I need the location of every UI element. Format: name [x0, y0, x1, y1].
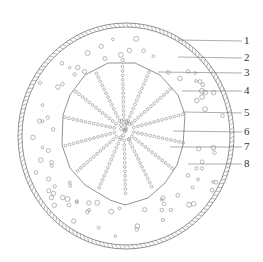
label-8: 8: [244, 158, 250, 169]
label-5: 5: [244, 107, 250, 118]
label-1: 1: [244, 35, 250, 46]
label-4: 4: [244, 85, 250, 96]
cell-circles: [31, 36, 225, 237]
cross-section-diagram: [0, 0, 263, 262]
label-7: 7: [244, 141, 250, 152]
epidermis-ring: [18, 23, 234, 249]
label-6: 6: [244, 126, 250, 137]
label-3: 3: [244, 67, 250, 78]
label-2: 2: [244, 52, 250, 63]
